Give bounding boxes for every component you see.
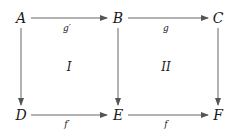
commutative-diagram: A B C D E F g′ g f′ f I II xyxy=(0,0,235,135)
node-f: F xyxy=(213,108,223,122)
edge-label-g-prime: g′ xyxy=(63,24,71,33)
edge-label-f: f xyxy=(164,120,167,129)
node-d: D xyxy=(15,108,26,122)
node-e: E xyxy=(113,108,123,122)
node-c: C xyxy=(213,11,224,25)
node-a: A xyxy=(16,11,26,25)
edge-label-f-prime: f′ xyxy=(64,120,69,129)
node-b: B xyxy=(113,11,123,25)
region-label-ii: II xyxy=(161,61,170,73)
region-label-i: I xyxy=(67,61,72,73)
edge-label-g: g xyxy=(163,24,169,33)
